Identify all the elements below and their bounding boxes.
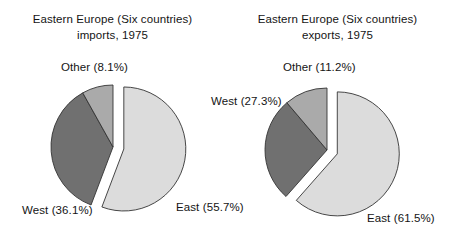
slice-label-imports-west: West (36.1%) [22,204,93,217]
slice-label-exports-west: West (27.3%) [211,95,282,108]
slice-label-exports-east: East (61.5%) [367,212,435,225]
chart-title-exports-line1: Eastern Europe (Six countries) [225,12,450,27]
chart-title-exports-line2: exports, 1975 [225,28,450,43]
slice-label-imports-east: East (55.7%) [176,201,244,214]
chart-title-imports-line1: Eastern Europe (Six countries) [0,12,225,27]
slice-label-imports-other: Other (8.1%) [61,61,128,74]
pie-chart-figure: Eastern Europe (Six countries) imports, … [0,0,450,240]
chart-panel-exports: Eastern Europe (Six countries) exports, … [225,0,450,240]
chart-title-imports-line2: imports, 1975 [0,28,225,43]
slice-label-exports-other: Other (11.2%) [283,61,356,74]
